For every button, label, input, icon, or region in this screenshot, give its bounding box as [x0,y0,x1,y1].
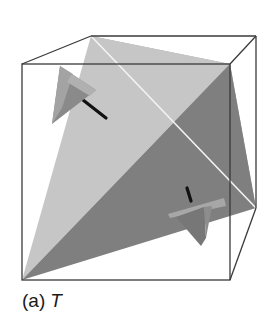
caption-label: (a) [22,290,45,311]
tetrahedron-in-cube-figure: (a)T [0,0,275,325]
figure-caption: (a)T [22,290,62,312]
caption-symbol: T [50,290,62,311]
tetrahedron-diagram [0,0,275,325]
